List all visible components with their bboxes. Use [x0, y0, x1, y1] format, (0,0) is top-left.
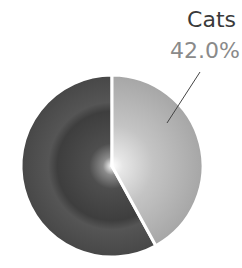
- pie-chart: Cats 42.0%: [0, 0, 242, 268]
- slice-label-cats-percent: 42.0%: [170, 38, 240, 63]
- slice-label-cats-name: Cats: [187, 7, 236, 32]
